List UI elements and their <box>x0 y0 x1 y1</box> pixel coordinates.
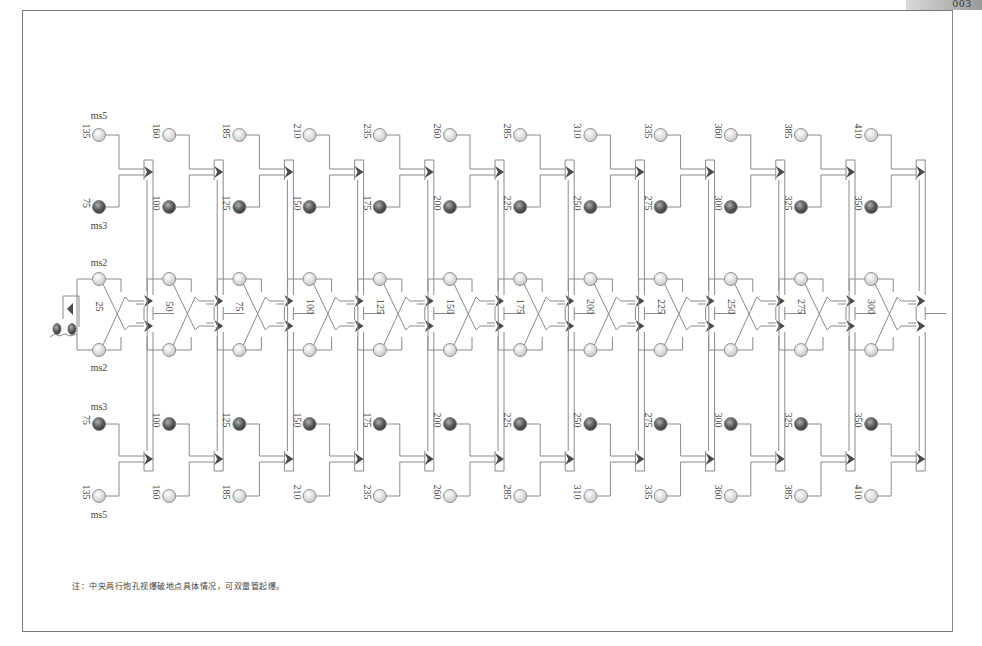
blasthole-bottom-outer <box>444 490 457 503</box>
wire <box>355 160 364 295</box>
delay-label-top-outer: 160 <box>151 124 162 139</box>
delay-label-bottom-inner: 175 <box>362 413 373 428</box>
delay-label-top-inner: 225 <box>502 196 513 211</box>
blasthole-top-outer <box>514 129 527 142</box>
blasthole-top-inner <box>373 201 386 214</box>
delay-label-center: 25 <box>94 302 105 312</box>
delay-label-top-inner: 200 <box>432 196 443 211</box>
blasthole-top-outer <box>584 129 597 142</box>
delay-label-top-outer: 360 <box>713 124 724 139</box>
wire <box>246 424 285 456</box>
delay-label-top-outer: 135 <box>81 124 92 139</box>
blasthole-center-bottom <box>93 344 106 357</box>
connector-arrow-icon <box>284 166 293 178</box>
wire <box>386 175 425 207</box>
blasthole-top-inner <box>163 201 176 214</box>
wire <box>336 326 355 330</box>
delay-label-bottom-outer: 360 <box>713 485 724 500</box>
wire <box>667 175 706 207</box>
connector-arrow-icon <box>495 166 504 178</box>
blasthole-top-outer <box>724 129 737 142</box>
wire <box>897 297 916 301</box>
wire <box>176 462 215 496</box>
blasthole-top-outer <box>865 129 878 142</box>
delay-label-center: 125 <box>375 299 386 314</box>
connector-arrow-icon <box>214 295 223 307</box>
blasthole-top-inner <box>93 201 106 214</box>
wire <box>687 297 706 301</box>
blasthole-center-top <box>373 273 386 286</box>
wire <box>737 462 776 496</box>
connector-arrow-icon <box>495 320 504 332</box>
connector-arrow-icon <box>495 295 504 307</box>
connector-arrow-icon <box>565 320 574 332</box>
connector-arrow-icon <box>144 166 153 178</box>
blasthole-bottom-outer <box>865 490 878 503</box>
wire <box>776 160 785 295</box>
wire <box>735 297 757 345</box>
wire <box>897 326 916 330</box>
wire <box>288 279 304 350</box>
wire <box>546 297 565 301</box>
blasthole-bottom-outer <box>514 490 527 503</box>
wire <box>527 135 566 169</box>
blasthole-bottom-outer <box>93 490 106 503</box>
delay-label-center: 250 <box>726 299 737 314</box>
wire <box>495 160 504 295</box>
blasthole-center-bottom <box>865 344 878 357</box>
wire <box>106 175 145 207</box>
connector-arrow-icon <box>565 453 574 465</box>
delay-label-bottom-inner: 150 <box>292 413 303 428</box>
wire <box>195 297 214 301</box>
connector-arrow-icon <box>846 320 855 332</box>
wire <box>737 175 776 207</box>
wire <box>246 462 285 496</box>
wire <box>687 326 706 330</box>
connector-arrow-icon <box>355 453 364 465</box>
delay-label-bottom-outer: 160 <box>151 485 162 500</box>
delay-label-top-inner: 100 <box>151 196 162 211</box>
initiator-arrow-icon <box>67 303 73 315</box>
wire <box>527 424 566 456</box>
blasthole-center-bottom <box>584 344 597 357</box>
wire <box>406 297 425 301</box>
blasthole-bottom-inner <box>163 418 176 431</box>
wire <box>284 160 293 295</box>
wire <box>176 135 215 169</box>
connector-arrow-icon <box>144 295 153 307</box>
delay-label-center: 275 <box>796 299 807 314</box>
connector-arrow-icon <box>635 166 644 178</box>
wire <box>214 160 223 295</box>
wire <box>147 279 163 350</box>
connector-arrow-icon <box>846 295 855 307</box>
wire <box>476 297 495 301</box>
connector-arrow-icon <box>706 320 715 332</box>
wire <box>827 297 846 301</box>
wire <box>546 326 565 330</box>
blasthole-top-outer <box>795 129 808 142</box>
wire <box>808 462 847 496</box>
wire <box>827 326 846 330</box>
wire <box>639 279 655 350</box>
blasthole-center-bottom <box>163 344 176 357</box>
delay-label-bottom-outer: 135 <box>81 485 92 500</box>
wire <box>565 160 574 295</box>
blasthole-bottom-inner <box>795 418 808 431</box>
delay-label-bottom-outer: 385 <box>783 485 794 500</box>
wire <box>875 297 897 345</box>
wire <box>524 284 546 330</box>
wire <box>176 175 215 207</box>
blasthole-center-bottom <box>303 344 316 357</box>
wire <box>144 160 153 295</box>
delay-label-top-inner: 75 <box>81 198 92 208</box>
connector-arrow-icon <box>706 453 715 465</box>
delay-label-bottom-inner: 225 <box>502 413 513 428</box>
delay-label-center: 200 <box>585 299 596 314</box>
blasthole-bottom-inner <box>654 418 667 431</box>
wire <box>805 297 827 345</box>
blasthole-bottom-inner <box>724 418 737 431</box>
wire <box>808 424 847 456</box>
wire <box>498 279 514 350</box>
connector-arrow-icon <box>355 166 364 178</box>
delay-label-bottom-inner: 200 <box>432 413 443 428</box>
